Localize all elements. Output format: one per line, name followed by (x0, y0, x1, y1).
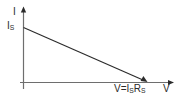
x-intercept-prefix: V=I (114, 83, 129, 94)
y-intercept-label: IS (7, 21, 14, 31)
y-intercept-subscript: S (10, 24, 15, 31)
x-intercept-label: V=ISRS (114, 84, 146, 94)
x-intercept-resistance: R (134, 83, 141, 94)
chart-figure: I IS V=ISRS V (0, 0, 181, 100)
y-axis-arrowhead (21, 7, 26, 13)
data-line (24, 28, 144, 81)
plot-area (0, 0, 181, 100)
y-axis-label: I (13, 7, 16, 17)
x-intercept-subscript-1: S (129, 87, 134, 94)
y-axis-label-text: I (13, 6, 16, 17)
x-intercept-subscript-2: S (141, 87, 146, 94)
x-axis-label-text: V (163, 83, 170, 94)
x-axis-label: V (163, 84, 170, 94)
